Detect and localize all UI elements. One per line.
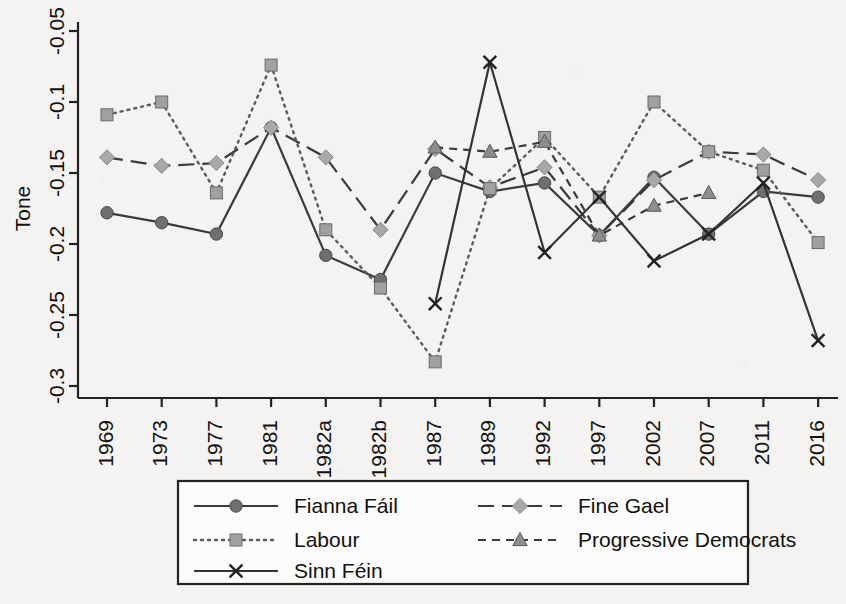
y-tick-label: -0.05 <box>45 7 68 55</box>
legend-layer: Fianna FáilFine GaelLabourProgressive De… <box>178 481 796 584</box>
x-tick-label: 1992 <box>531 420 554 467</box>
x-tick-label: 1982b <box>367 420 390 478</box>
x-tick-label: 2007 <box>695 420 718 467</box>
y-tick-label: -0.3 <box>45 368 68 404</box>
series-sinn-f-in <box>429 56 825 347</box>
x-tick-label: 1987 <box>422 420 445 467</box>
x-tick-label: 1989 <box>476 420 499 467</box>
data-point <box>811 173 826 188</box>
data-point <box>265 59 277 71</box>
data-point <box>209 155 224 170</box>
data-point <box>538 246 551 259</box>
y-tick-label: -0.1 <box>45 84 68 120</box>
x-tick-label: 2002 <box>641 420 664 467</box>
data-point <box>484 183 496 195</box>
series-line <box>107 65 818 362</box>
data-point <box>429 356 441 368</box>
series-line <box>435 142 709 236</box>
series-fianna-f-il <box>101 121 825 285</box>
data-point <box>538 177 550 189</box>
data-point <box>156 96 168 108</box>
legend-label: Sinn Féin <box>294 559 383 582</box>
y-tick-label: -0.2 <box>45 226 68 262</box>
x-tick-label: 2016 <box>805 420 828 467</box>
data-point <box>756 147 771 162</box>
data-point <box>101 109 113 121</box>
x-tick-label: 1997 <box>586 420 609 467</box>
data-point <box>320 249 332 261</box>
legend-marker-sample <box>230 500 242 512</box>
y-tick-label: -0.15 <box>45 149 68 197</box>
legend-label: Progressive Democrats <box>578 528 796 551</box>
data-point <box>210 228 222 240</box>
data-point <box>156 217 168 229</box>
x-tick-label: 1969 <box>94 420 117 467</box>
legend-label: Fianna Fáil <box>294 494 398 517</box>
chart-figure: -0.05-0.1-0.15-0.2-0.25-0.3Tone196919731… <box>0 0 846 604</box>
data-point <box>648 96 660 108</box>
legend-label: Labour <box>294 528 359 551</box>
data-point <box>210 187 222 199</box>
chart-svg: -0.05-0.1-0.15-0.2-0.25-0.3Tone196919731… <box>0 0 846 604</box>
data-point <box>101 207 113 219</box>
x-tick-label: 1973 <box>148 420 171 467</box>
data-point <box>703 146 715 158</box>
data-point <box>429 167 441 179</box>
data-point <box>154 158 169 173</box>
x-tick-label: 1982a <box>312 420 335 479</box>
legend-marker-sample <box>230 534 242 546</box>
data-point <box>702 185 716 198</box>
data-point <box>375 282 387 294</box>
series-line <box>435 62 818 340</box>
y-tick-label: -0.25 <box>45 291 68 339</box>
data-point <box>812 191 824 203</box>
data-point <box>812 237 824 249</box>
series-labour <box>101 59 824 368</box>
x-tick-label: 1981 <box>258 420 281 467</box>
data-point <box>812 334 825 347</box>
x-tick-label: 1977 <box>203 420 226 467</box>
data-point <box>99 150 114 165</box>
legend-label: Fine Gael <box>578 494 669 517</box>
x-tick-label: 2011 <box>750 420 773 465</box>
y-axis-title: Tone <box>11 186 34 232</box>
series-layer <box>99 56 825 368</box>
data-point <box>757 164 769 176</box>
axis-layer: -0.05-0.1-0.15-0.2-0.25-0.3Tone196919731… <box>11 7 838 478</box>
data-point <box>320 224 332 236</box>
data-point <box>264 120 279 135</box>
data-point <box>648 255 661 268</box>
